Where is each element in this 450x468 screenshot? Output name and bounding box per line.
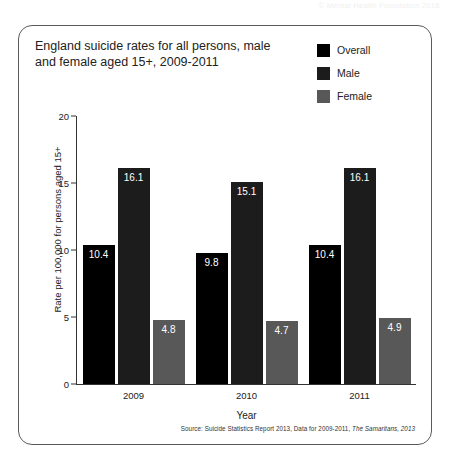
bar-value-label: 4.8 — [153, 324, 185, 335]
legend-label: Overall — [337, 44, 370, 56]
y-tick-label: 15 — [41, 178, 69, 189]
chart-header: England suicide rates for all persons, m… — [19, 26, 431, 104]
source-note-publisher: The Samaritans, 2013 — [352, 425, 415, 432]
bar-value-label: 9.8 — [196, 257, 228, 268]
x-axis-title: Year — [77, 410, 416, 421]
legend-label: Male — [337, 67, 360, 79]
legend-swatch-icon — [317, 90, 330, 103]
x-tick-label-2009: 2009 — [79, 390, 189, 401]
legend-swatch-icon — [317, 44, 330, 57]
bar-overall-2009[interactable]: 10.4 — [83, 245, 115, 384]
bar-male-2010[interactable]: 15.1 — [231, 182, 263, 384]
legend-swatch-icon — [317, 67, 330, 80]
x-tick-label-2011: 2011 — [305, 390, 415, 401]
bar-male-2011[interactable]: 16.1 — [344, 168, 376, 384]
y-tick-mark — [71, 384, 76, 385]
source-note-text: Source: Suicide Statistics Report 2013, … — [181, 425, 352, 432]
bar-group-2010: 9.815.14.7 — [196, 104, 298, 384]
legend-item-female[interactable]: Female — [317, 86, 413, 106]
y-tick-mark — [71, 317, 76, 318]
y-tick-label: 10 — [41, 245, 69, 256]
bar-female-2009[interactable]: 4.8 — [153, 320, 185, 384]
x-tick-label-2010: 2010 — [192, 390, 302, 401]
bar-value-label: 4.9 — [379, 322, 411, 333]
bar-value-label: 16.1 — [344, 172, 376, 183]
bar-value-label: 10.4 — [83, 249, 115, 260]
legend-label: Female — [337, 90, 372, 102]
bar-group-2011: 10.416.14.9 — [309, 104, 411, 384]
y-tick-mark — [71, 183, 76, 184]
bar-group-2009: 10.416.14.8 — [83, 104, 185, 384]
bar-groups: 10.416.14.89.815.14.710.416.14.9 — [77, 104, 416, 384]
bar-value-label: 16.1 — [118, 172, 150, 183]
bar-overall-2011[interactable]: 10.4 — [309, 245, 341, 384]
chart-card: England suicide rates for all persons, m… — [18, 25, 432, 445]
bar-overall-2010[interactable]: 9.8 — [196, 253, 228, 384]
bar-female-2010[interactable]: 4.7 — [266, 321, 298, 384]
y-axis-ticks: 05101520 — [41, 104, 69, 384]
chart-title: England suicide rates for all persons, m… — [35, 38, 275, 70]
y-tick-label: 20 — [41, 111, 69, 122]
x-axis-line — [76, 384, 416, 385]
x-axis-ticks: 200920102011 — [77, 390, 416, 401]
y-tick-mark — [71, 250, 76, 251]
bar-male-2009[interactable]: 16.1 — [118, 168, 150, 384]
bar-value-label: 10.4 — [309, 249, 341, 260]
page-header-note: © Mental Health Foundation 2016 — [318, 1, 440, 10]
bar-value-label: 4.7 — [266, 325, 298, 336]
y-tick-label: 5 — [41, 312, 69, 323]
source-note: Source: Suicide Statistics Report 2013, … — [181, 425, 415, 432]
bar-value-label: 15.1 — [231, 186, 263, 197]
y-tick-label: 0 — [41, 379, 69, 390]
chart-legend: OverallMaleFemale — [317, 40, 413, 109]
bar-female-2011[interactable]: 4.9 — [379, 318, 411, 384]
legend-item-overall[interactable]: Overall — [317, 40, 413, 60]
legend-item-male[interactable]: Male — [317, 63, 413, 83]
plot-area: Rate per 100,000 for persons aged 15+ 05… — [19, 104, 433, 446]
y-tick-mark — [71, 116, 76, 117]
